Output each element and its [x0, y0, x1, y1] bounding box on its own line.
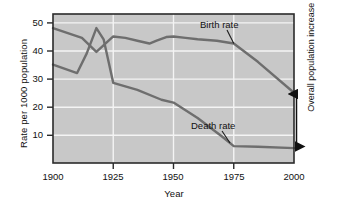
death-rate-label: Death rate	[191, 120, 235, 131]
x-tick-label-2000: 2000	[274, 171, 314, 182]
birth-rate-label: Birth rate	[200, 19, 239, 30]
overall-population-increase-label: Overall population increase	[306, 2, 317, 112]
y-axis-title: Rate per 1000 population	[18, 19, 29, 169]
y-tick-label-50: 50	[21, 17, 43, 28]
y-tick-label-20: 20	[21, 101, 43, 112]
x-tick-label-1975: 1975	[214, 171, 254, 182]
x-tick-label-1925: 1925	[93, 171, 133, 182]
y-tick-label-40: 40	[21, 45, 43, 56]
y-tick-label-10: 10	[21, 129, 43, 140]
figure-container: Rate per 1000 population Year 50 40 30 2…	[0, 0, 349, 209]
x-axis-ticks	[113, 163, 234, 169]
x-axis-title: Year	[53, 188, 295, 199]
x-tick-label-1950: 1950	[153, 171, 193, 182]
y-tick-label-30: 30	[21, 73, 43, 84]
x-tick-label-1900: 1900	[33, 171, 73, 182]
y-axis-ticks	[47, 23, 53, 135]
